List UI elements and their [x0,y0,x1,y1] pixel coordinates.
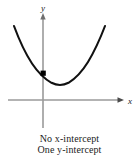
parabola-curve [14,26,105,85]
coordinate-plot: y x [0,0,139,132]
y-axis-arrowhead [40,13,45,20]
caption-line-one-y-intercept: One y-intercept [0,144,139,155]
y-axis-label: y [40,3,45,13]
y-intercept-marker [41,71,46,76]
x-axis-arrowhead [118,97,125,102]
parabola-figure: y x No x-intercept One y-intercept [0,0,139,157]
figure-caption: No x-intercept One y-intercept [0,133,139,155]
x-axis-label: x [127,96,132,106]
caption-line-no-x-intercept: No x-intercept [0,133,139,144]
